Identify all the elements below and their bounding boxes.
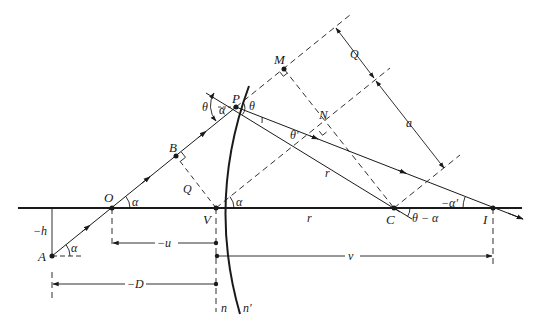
perpendicular-VB <box>176 156 216 208</box>
point-O <box>110 206 115 211</box>
label-r-axis: r <box>307 212 312 224</box>
incident-ray-extension <box>236 15 350 107</box>
label-I: I <box>483 213 487 226</box>
perpendicular-MC <box>284 69 394 208</box>
label-Q-lower: Q <box>183 183 192 195</box>
label-minus-h: −h <box>33 225 47 237</box>
marker-v-start <box>215 254 219 258</box>
right-angle-N <box>319 131 326 135</box>
label-alpha-A: α <box>71 242 77 254</box>
right-angle-M <box>280 72 287 76</box>
angle-arc-I <box>463 197 465 208</box>
label-P: P <box>232 92 240 105</box>
angle-arc-V <box>230 197 234 208</box>
label-M: M <box>274 53 285 66</box>
angle-arc-A <box>66 245 70 256</box>
label-alpha-O: α <box>132 196 138 208</box>
angle-arc-O <box>126 197 130 208</box>
marker-D-end <box>214 282 218 286</box>
label-minus-alpha-prime: −α′ <box>441 197 458 209</box>
point-C <box>392 206 397 211</box>
label-theta-minus-alpha: θ − α <box>412 212 438 224</box>
parallel-line-through-V <box>216 68 390 208</box>
label-O: O <box>104 191 113 204</box>
label-N: N <box>319 108 328 121</box>
label-a: a <box>406 117 412 129</box>
label-minus-D: −D <box>127 278 144 290</box>
refraction-diagram <box>0 0 535 329</box>
point-M <box>282 67 287 72</box>
angle-arc-C <box>408 208 410 216</box>
refracted-ray <box>236 107 523 219</box>
label-theta-left: θ <box>202 101 208 113</box>
label-r-radius: r <box>325 167 330 179</box>
label-Q-upper: Q <box>350 48 359 60</box>
label-C: C <box>386 213 395 226</box>
point-I <box>491 206 496 211</box>
label-n: n <box>221 302 227 314</box>
label-B: B <box>169 141 177 154</box>
right-angle-B <box>180 152 185 162</box>
label-theta-right: θ <box>249 100 255 112</box>
label-theta-prime: θ′ <box>290 129 299 141</box>
label-A: A <box>38 250 46 263</box>
label-alpha-V: α <box>236 196 242 208</box>
marker-u-end <box>214 241 218 245</box>
point-A <box>50 254 55 259</box>
label-v: v <box>348 250 353 262</box>
label-V: V <box>203 213 211 226</box>
point-V <box>214 206 219 211</box>
label-minus-u: −u <box>157 237 171 249</box>
label-n-prime: n′ <box>243 302 252 314</box>
label-alpha-P: α <box>219 104 225 116</box>
